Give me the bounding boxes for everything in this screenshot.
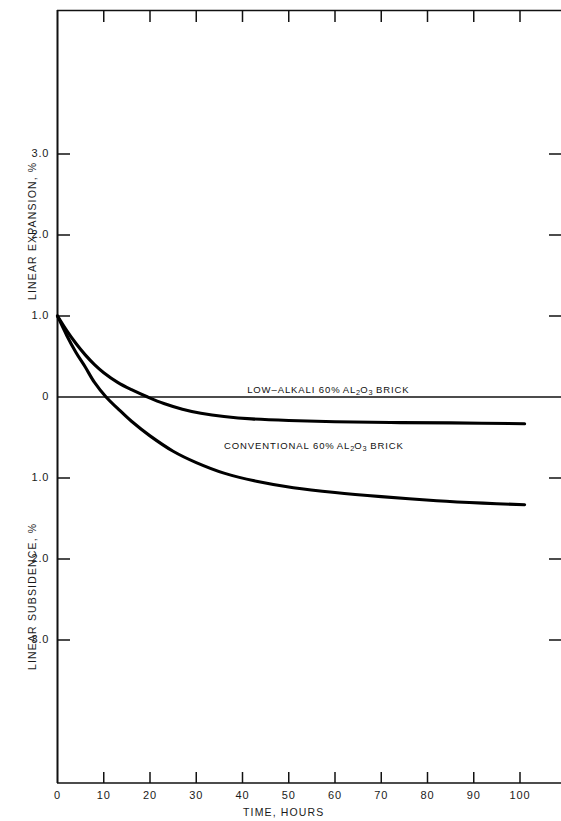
x-tick-label: 50	[269, 789, 309, 801]
chart-figure: LINEAR EXPANSION, % LINEAR SUBSIDENCE, %…	[0, 0, 561, 821]
x-tick-label: 90	[454, 789, 494, 801]
data-curves	[58, 316, 525, 505]
x-tick-label: 70	[361, 789, 401, 801]
conventional-label: CONVENTIONAL 60% AL2O3 BRICK	[224, 440, 404, 451]
low-alkali-label: LOW–ALKALI 60% AL2O3 BRICK	[247, 384, 409, 395]
x-tick-label: 60	[315, 789, 355, 801]
curve-conventional	[58, 316, 525, 505]
y-tick-label: 2.0	[8, 552, 49, 564]
x-tick-label: 10	[84, 789, 124, 801]
y-tick-label: 3.0	[8, 147, 49, 159]
curve-low-alkali	[58, 316, 525, 424]
x-tick-label: 0	[38, 789, 78, 801]
y-tick-label: 0	[8, 390, 49, 402]
x-tick-label: 100	[500, 789, 540, 801]
y-tick-label: 1.0	[8, 309, 49, 321]
x-tick-label: 30	[176, 789, 216, 801]
y-axis-title-bottom: LINEAR SUBSIDENCE, %	[26, 523, 38, 670]
x-tick-label: 20	[130, 789, 170, 801]
x-axis-title: TIME, HOURS	[243, 806, 325, 818]
chart-plot-area	[0, 0, 561, 821]
x-tick-label: 40	[223, 789, 263, 801]
y-tick-label: 2.0	[8, 228, 49, 240]
y-tick-label: 3.0	[8, 633, 49, 645]
x-tick-label: 80	[408, 789, 448, 801]
y-tick-label: 1.0	[8, 471, 49, 483]
